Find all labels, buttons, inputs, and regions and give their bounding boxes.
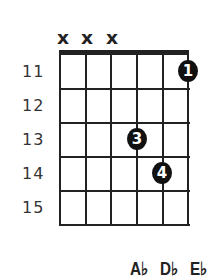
fret-number: 13 bbox=[22, 130, 48, 149]
nut-bar bbox=[59, 50, 189, 55]
string-line bbox=[162, 54, 164, 226]
fret-line bbox=[59, 190, 190, 192]
muted-string-marker: x bbox=[54, 28, 72, 48]
fret-line bbox=[59, 224, 190, 226]
muted-string-marker: x bbox=[78, 28, 96, 48]
fret-number: 11 bbox=[22, 62, 48, 81]
fret-line bbox=[59, 156, 190, 158]
muted-string-marker: x bbox=[103, 28, 121, 48]
fret-number: 14 bbox=[22, 164, 48, 183]
finger-dot: 1 bbox=[178, 60, 198, 82]
fret-number: 12 bbox=[22, 96, 48, 115]
fret-line bbox=[59, 122, 190, 124]
fret-number: 15 bbox=[22, 198, 48, 217]
string-line bbox=[110, 54, 112, 226]
note-names: A♭ D♭ E♭ bbox=[130, 258, 214, 280]
string-line bbox=[59, 54, 61, 226]
finger-dot: 4 bbox=[152, 162, 172, 184]
fret-line bbox=[59, 88, 190, 90]
chord-diagram: x x x 11 12 13 14 15 1 3 4 A♭ D♭ E♭ bbox=[0, 0, 218, 280]
finger-dot: 3 bbox=[127, 128, 147, 150]
string-line bbox=[85, 54, 87, 226]
note-label: E♭ bbox=[190, 258, 207, 280]
note-label: A♭ bbox=[130, 258, 148, 280]
note-label: D♭ bbox=[160, 258, 178, 280]
